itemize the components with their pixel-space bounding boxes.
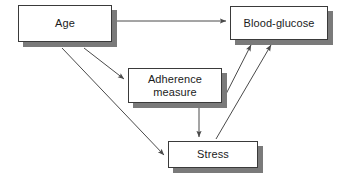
node-stress[interactable]: Stress — [168, 141, 258, 168]
node-stress-label: Stress — [197, 148, 229, 161]
node-adherence-measure[interactable]: Adherence measure — [128, 68, 222, 103]
path-model-diagram: Age Blood-glucose Adherence measure Stre… — [0, 0, 338, 181]
node-blood-glucose[interactable]: Blood-glucose — [230, 6, 328, 40]
node-age[interactable]: Age — [18, 5, 112, 42]
node-age-label: Age — [55, 17, 75, 30]
node-adherence-measure-label: Adherence measure — [148, 73, 202, 99]
node-blood-glucose-label: Blood-glucose — [243, 17, 314, 30]
edge-age-to-adherence — [84, 48, 124, 79]
edge-adherence-to-blood-glucose — [224, 45, 251, 98]
